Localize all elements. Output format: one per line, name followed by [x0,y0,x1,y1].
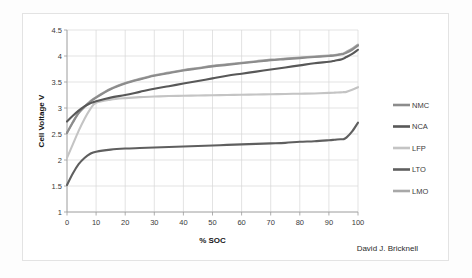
x-axis-title: % SOC [199,236,226,245]
x-tick-label: 40 [179,218,187,227]
y-axis-title: Cell Voltage V [37,94,46,147]
legend-item-nca: NCA [393,122,428,131]
y-tick-label: 2.5 [52,130,62,139]
legend-group: NMCNCALFPLTOLMO [393,101,430,196]
legend-item-nmc: NMC [393,101,430,110]
x-tick-label: 100 [352,218,365,227]
legend-item-lmo: LMO [393,187,428,196]
chart-figure: 11.522.533.544.50102030405060708090100 %… [0,0,472,278]
x-tick-label: 80 [296,218,304,227]
y-tick-label: 4.5 [52,26,62,35]
legend-label-nmc: NMC [412,101,430,110]
y-tick-label: 1.5 [52,182,62,191]
legend-label-nca: NCA [412,122,428,131]
x-tick-label: 90 [325,218,333,227]
y-tick-label: 3.5 [52,78,62,87]
x-tick-label: 0 [65,218,69,227]
legend-item-lfp: LFP [393,144,426,153]
y-tick-label: 4 [58,52,62,61]
x-tick-label: 10 [92,218,100,227]
x-tick-label: 70 [267,218,275,227]
x-tick-label: 20 [121,218,129,227]
credit-text: David J. Bricknell [357,244,419,253]
chart-canvas: 11.522.533.544.50102030405060708090100 %… [0,0,472,278]
x-tick-label: 60 [237,218,245,227]
legend-label-lfp: LFP [412,144,426,153]
y-tick-label: 2 [58,156,62,165]
x-tick-label: 30 [150,218,158,227]
y-tick-label: 3 [58,104,62,113]
x-tick-label: 50 [208,218,216,227]
legend-label-lto: LTO [412,165,426,174]
legend-item-lto: LTO [393,165,426,174]
y-tick-label: 1 [58,208,62,217]
legend-label-lmo: LMO [412,187,428,196]
